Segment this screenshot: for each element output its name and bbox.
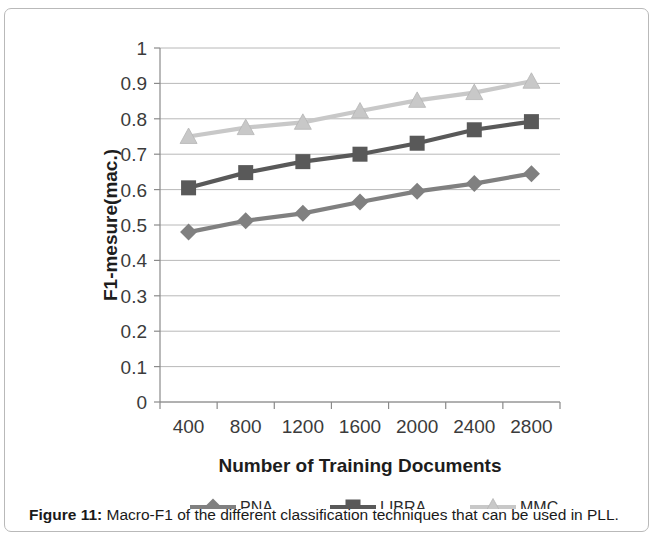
data-point-square xyxy=(524,114,539,129)
figure-caption-label: Figure 11: xyxy=(29,506,102,523)
x-tick-label: 1600 xyxy=(339,416,381,437)
data-point-diamond xyxy=(294,205,311,222)
x-axis xyxy=(160,402,560,409)
y-tick-labels: 00.10.20.30.40.50.60.70.80.91 xyxy=(121,38,148,413)
chart-canvas: 00.10.20.30.40.50.60.70.80.91 4008001200… xyxy=(5,9,650,509)
line-chart-svg: 00.10.20.30.40.50.60.70.80.91 4008001200… xyxy=(5,9,650,509)
y-tick-label: 0.1 xyxy=(121,357,147,378)
x-tick-label: 2800 xyxy=(510,416,552,437)
figure-frame: 00.10.20.30.40.50.60.70.80.91 4008001200… xyxy=(4,8,649,532)
y-tick-label: 0.3 xyxy=(121,286,147,307)
data-point-diamond xyxy=(352,193,369,210)
data-series-group xyxy=(180,73,540,241)
x-tick-label: 2000 xyxy=(396,416,438,437)
figure-caption: Figure 11: Macro-F1 of the different cla… xyxy=(29,505,629,526)
y-tick-label: 0.7 xyxy=(121,144,147,165)
data-point-square xyxy=(238,165,253,180)
x-tick-label: 2400 xyxy=(453,416,495,437)
x-tick-labels: 40080012001600200024002800 xyxy=(173,416,553,437)
y-tick-label: 0 xyxy=(136,392,147,413)
x-tick-label: 400 xyxy=(173,416,205,437)
y-tick-label: 0.8 xyxy=(121,109,147,130)
data-point-square xyxy=(353,147,368,162)
data-point-diamond xyxy=(523,165,540,182)
x-tick-label: 800 xyxy=(230,416,262,437)
x-axis-title: Number of Training Documents xyxy=(219,455,502,476)
y-tick-label: 0.9 xyxy=(121,73,147,94)
y-tick-label: 1 xyxy=(136,38,147,59)
y-tick-label: 0.6 xyxy=(121,180,147,201)
y-axis xyxy=(154,48,160,402)
data-point-square xyxy=(410,136,425,151)
data-point-diamond xyxy=(237,212,254,229)
data-point-square xyxy=(295,154,310,169)
y-tick-label: 0.2 xyxy=(121,321,147,342)
y-axis-title: F1-mesure(mac.) xyxy=(100,149,121,301)
y-tick-label: 0.4 xyxy=(121,250,148,271)
y-tick-label: 0.5 xyxy=(121,215,147,236)
data-point-diamond xyxy=(409,183,426,200)
figure-caption-text: Macro-F1 of the different classification… xyxy=(102,506,619,523)
x-tick-label: 1200 xyxy=(282,416,324,437)
data-point-diamond xyxy=(180,224,197,241)
data-point-square xyxy=(467,122,482,137)
data-point-square xyxy=(181,180,196,195)
